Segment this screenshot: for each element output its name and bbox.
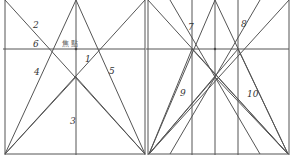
fan-line-9c xyxy=(149,49,238,154)
fan-line-10c xyxy=(192,49,288,154)
focal-point-dot xyxy=(75,48,78,51)
line-5 xyxy=(76,0,145,154)
left-panel: 焦 點 2 6 1 4 5 3 xyxy=(3,0,145,155)
label-9: 9 xyxy=(180,88,186,98)
line-center-to-bottom-right xyxy=(76,77,145,154)
right-focal-dot xyxy=(214,48,216,50)
line-center-to-bottom-left xyxy=(5,77,76,154)
focal-point-label: 焦 點 xyxy=(62,39,78,48)
perspective-diagram: 焦 點 2 6 1 4 5 3 xyxy=(0,0,291,155)
label-3: 3 xyxy=(70,116,76,126)
label-5: 5 xyxy=(109,66,115,76)
label-6: 6 xyxy=(33,39,39,49)
label-2: 2 xyxy=(32,20,39,30)
label-4: 4 xyxy=(33,67,40,77)
diagram-canvas: 焦 點 2 6 1 4 5 3 xyxy=(0,0,291,155)
label-10: 10 xyxy=(247,89,259,99)
label-7: 7 xyxy=(188,22,194,32)
label-8: 8 xyxy=(241,19,247,29)
label-1: 1 xyxy=(85,54,91,64)
fan-line-9a xyxy=(149,49,192,154)
line-4 xyxy=(5,0,76,154)
fan-line-10a xyxy=(238,49,288,154)
diagonal-top-right xyxy=(149,0,289,154)
right-panel: 7 8 9 10 xyxy=(146,0,289,155)
